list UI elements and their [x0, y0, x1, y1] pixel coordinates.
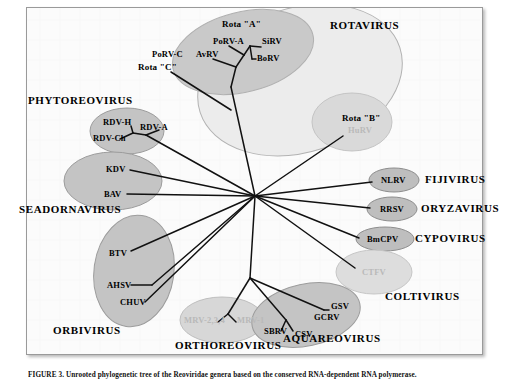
branch-rrsv: [255, 196, 370, 208]
branch-lower-stem: [250, 196, 255, 278]
branch-bmcpv: [255, 196, 359, 238]
taxon-rdv-h: RDV-H: [103, 118, 131, 127]
genus-label-cypovirus: CYPOVIRUS: [415, 233, 486, 244]
taxon-porv-a: PoRV-A: [213, 37, 244, 46]
genus-label-aquareovirus: AQUAREOVIRUS: [283, 333, 381, 344]
genus-label-fijivirus: FIJIVIRUS: [425, 174, 485, 185]
branch-sirv: [250, 46, 261, 47]
taxon-gsv: GSV: [331, 302, 349, 311]
taxon-bmcpv: BmCPV: [367, 235, 398, 244]
figure-page: Rota "A" PoRV-A SiRV AvRV BoRV PoRV-C Ro…: [0, 0, 510, 385]
taxon-nlrv: NLRV: [381, 176, 406, 185]
cluster-ellipses: [64, 0, 422, 357]
taxon-rota-a: Rota "A": [222, 20, 261, 29]
taxon-mrv-234: MRV-2,3,4: [184, 316, 225, 325]
taxon-btv: BTV: [109, 249, 127, 258]
figure-caption: FIGURE 3. Unrooted phylogenetic tree of …: [28, 371, 498, 384]
taxon-sirv: SiRV: [262, 37, 282, 46]
taxon-chuv: CHUV: [120, 298, 146, 307]
taxon-ctfv: CTFV: [362, 268, 386, 277]
genus-label-orthoreovirus: ORTHOREOVIRUS: [175, 340, 281, 351]
genus-label-seadornavirus: SEADORNAVIRUS: [19, 204, 121, 215]
taxon-rota-c: Rota "C": [138, 63, 177, 72]
taxon-rrsv: RRSV: [380, 205, 404, 214]
cluster-seadornavirus: [64, 152, 162, 210]
taxon-porv-c: PoRV-C: [152, 50, 183, 59]
genus-label-rotavirus: ROTAVIRUS: [330, 20, 399, 31]
taxon-avrv: AvRV: [196, 50, 219, 59]
taxon-rdv-ch: RDV-Ch: [93, 134, 126, 143]
taxon-borv: BoRV: [257, 54, 280, 63]
taxon-ahsv: AHSV: [107, 281, 131, 290]
taxon-mrv-1: MRV-1: [237, 316, 264, 325]
taxon-rdv-a: RDV-A: [140, 123, 168, 132]
genus-label-phytoreovirus: PHYTOREOVIRUS: [28, 95, 133, 106]
taxon-hurv: HuRV: [348, 126, 372, 135]
taxon-kdv: KDV: [106, 165, 126, 174]
genus-label-orbivirus: ORBIVIRUS: [53, 325, 121, 336]
genus-label-oryzavirus: ORYZAVIRUS: [421, 203, 499, 214]
taxon-bav: BAV: [104, 190, 121, 199]
genus-label-coltivirus: COLTIVIRUS: [385, 291, 460, 302]
taxon-rota-b: Rota "B": [342, 114, 380, 123]
taxon-gcrv: GCRV: [314, 313, 340, 322]
